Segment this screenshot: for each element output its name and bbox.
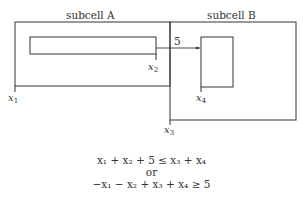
equation-line-2: −x₁ − x₂ + x₃ + x₄ ≥ 5: [0, 178, 303, 190]
subcell-b-label: subcell B: [207, 9, 256, 21]
subcell-a-inner-rect: [30, 37, 156, 54]
x4-label: x4: [196, 92, 207, 105]
subcell-a-label: subcell A: [66, 9, 115, 21]
equation-line-1: x₁ + x₂ + 5 ≤ x₃ + x₄: [0, 154, 303, 166]
subcell-b-inner-rect: [201, 37, 233, 87]
x1-label: x1: [8, 92, 18, 105]
x3-label: x3: [164, 124, 174, 137]
spacing-label: 5: [174, 35, 181, 47]
equation-connector: or: [0, 166, 303, 178]
x2-label: x2: [148, 61, 158, 74]
